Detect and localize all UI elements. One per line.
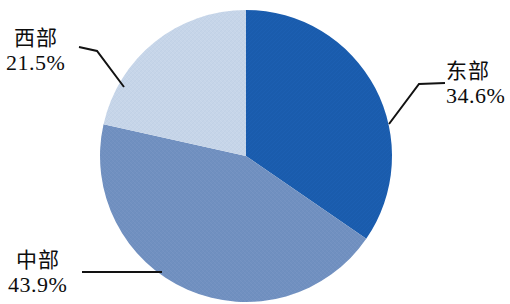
pie-label-west-name: 西部 (6, 27, 65, 51)
leader-line-east (389, 83, 445, 124)
pie-label-west: 西部 21.5% (6, 27, 65, 75)
pie-label-east: 东部 34.6% (446, 60, 505, 108)
pie-label-middle-name: 中部 (8, 249, 67, 273)
pie-chart-canvas (0, 0, 510, 304)
pie-label-east-name: 东部 (446, 60, 505, 84)
pie-label-east-value: 34.6% (446, 84, 505, 109)
pie-chart: 西部 21.5% 东部 34.6% 中部 43.9% (0, 0, 510, 304)
pie-label-middle: 中部 43.9% (8, 249, 67, 297)
leader-line-west (79, 47, 124, 87)
pie-label-middle-value: 43.9% (8, 273, 67, 298)
pie-label-west-value: 21.5% (6, 51, 65, 76)
